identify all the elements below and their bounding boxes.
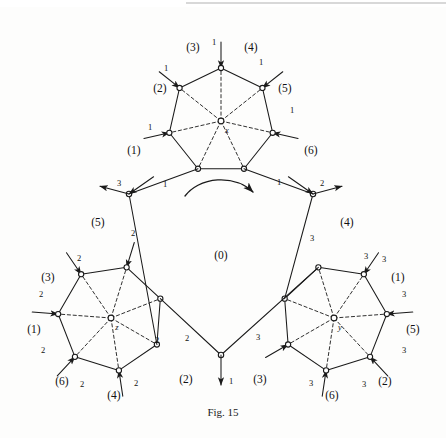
center-vertex-y: [331, 315, 337, 321]
edge-label: 2: [134, 378, 138, 388]
edge-label: 3: [402, 289, 406, 299]
spoke-z-2: [75, 318, 111, 357]
region-label: (4): [107, 389, 120, 401]
in-arrow-y-5: [370, 357, 388, 376]
vertex-z-2: [72, 354, 77, 359]
edge-label: 1: [259, 57, 263, 67]
edge-label: 3: [402, 345, 406, 355]
vertex-x-1: [260, 85, 265, 90]
edge-label: 3: [364, 251, 368, 261]
edge-label: 3: [310, 233, 314, 243]
region-label: (3): [253, 373, 266, 385]
vertex-z-3: [56, 311, 61, 316]
vertex-y-0: [286, 342, 291, 347]
region-label: (5): [278, 82, 291, 94]
edge-label: 1: [163, 179, 167, 189]
junction-stub-3: [313, 186, 342, 194]
region-label: (6): [55, 375, 68, 387]
center-label-z: z: [115, 322, 118, 332]
ring-edge-z-0: [119, 345, 157, 371]
vertex-y-4: [384, 311, 389, 316]
vertex-x-5: [167, 130, 172, 135]
in-arrow-y-4: [387, 312, 413, 314]
ring-edge-y-3: [364, 274, 387, 314]
region-label: (5): [91, 216, 104, 228]
ring-edge-y-2: [318, 267, 363, 274]
region-label: (6): [325, 389, 338, 401]
spoke-y-1: [285, 299, 334, 318]
region-label: (3): [41, 271, 54, 283]
link-bottom-a: [160, 299, 221, 355]
figure-artwork: [0, 0, 446, 438]
edge-label: 1: [229, 376, 233, 386]
spoke-x-1: [221, 88, 262, 121]
edge-label: 2: [320, 178, 324, 188]
ring-edge-x-6: [180, 68, 221, 88]
spoke-z-3: [58, 314, 111, 318]
region-label: (1): [391, 271, 404, 283]
ring-edge-z-2: [58, 314, 75, 357]
edge-label: 1: [277, 177, 281, 187]
ring-edge-y-5: [326, 357, 370, 371]
edge-label: 2: [80, 379, 84, 389]
region-label: (0): [214, 249, 227, 261]
ring-edge-y-4: [370, 314, 387, 357]
edge-label: 1: [148, 122, 152, 132]
region-label: (2): [179, 373, 192, 385]
spoke-y-3: [334, 274, 364, 318]
spoke-y-2: [318, 267, 334, 318]
ring-edge-y-0: [285, 299, 288, 345]
link-bottom-b: [221, 267, 318, 355]
region-label: (4): [244, 41, 257, 53]
spoke-y-0: [288, 318, 334, 345]
vertex-y-3: [361, 272, 366, 277]
ring-edge-z-4: [81, 267, 126, 274]
ring-edge-x-0: [221, 68, 262, 88]
ring-edge-x-5: [169, 88, 179, 133]
edge-label: 1: [290, 105, 294, 115]
edge-label: 2: [41, 345, 45, 355]
spoke-x-5: [169, 121, 221, 133]
edge-label: 1: [164, 63, 168, 73]
ring-edge-z-1: [75, 357, 119, 371]
edge-label: 3: [309, 378, 313, 388]
figure-caption: Fig. 15: [0, 406, 446, 418]
ring-edge-x-1: [262, 88, 272, 133]
junction-stub-0: [100, 186, 129, 194]
spoke-y-6: [326, 318, 334, 370]
region-label: (2): [378, 375, 391, 387]
spoke-x-4: [198, 121, 221, 169]
region-label: (6): [304, 144, 317, 156]
in-arrow-x-2: [273, 133, 298, 139]
spoke-x-6: [180, 88, 221, 121]
junction-stub-1: [129, 177, 154, 194]
ring-edge-z-3: [58, 274, 81, 314]
region-label: (1): [27, 323, 40, 335]
vertex-y-6: [324, 368, 329, 373]
vertex-x-6: [177, 85, 182, 90]
vertex-z-1: [116, 368, 121, 373]
link-right-b: [285, 194, 313, 299]
vertex-z-4: [79, 272, 84, 277]
in-arrow-z-5: [127, 243, 135, 268]
link-left-b: [129, 194, 157, 345]
vertex-x-0: [218, 65, 223, 70]
spoke-z-5: [111, 267, 127, 318]
edge-label: 2: [155, 335, 159, 345]
figure-page: xzy(0)(3)(4)(2)(5)(1)(6)(5)(3)(1)(6)(4)(…: [0, 0, 446, 438]
spoke-z-4: [81, 274, 111, 318]
edge-label: 3: [362, 379, 366, 389]
region-label: (1): [127, 144, 140, 156]
center-vertex-x: [218, 118, 224, 124]
center-label-y: y: [338, 322, 342, 332]
in-arrow-z-2: [57, 357, 75, 376]
rotation-arrow-icon: [185, 180, 253, 196]
ring-edge-x-2: [244, 133, 273, 169]
region-label: (4): [340, 216, 353, 228]
in-arrow-x-5: [144, 133, 169, 139]
ring-edge-y-6: [288, 345, 326, 371]
edge-label: 1: [212, 37, 216, 47]
in-arrow-y-0: [266, 345, 289, 358]
vertex-z-5: [124, 265, 129, 270]
region-label: (5): [406, 323, 419, 335]
